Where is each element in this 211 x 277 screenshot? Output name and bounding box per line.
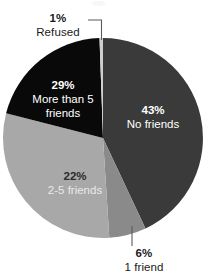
slice-label-two-to-five-percent: 22% (29, 169, 121, 183)
slice-label-no-friends-percent: 43% (113, 103, 193, 117)
pie-chart-graphic (0, 0, 211, 277)
slice-label-more-than-five-friends: 29% More than 5 friends (17, 78, 109, 120)
callout-one-friend-category: 1 friend (108, 261, 180, 275)
slice-label-no-friends: 43% No friends (113, 103, 193, 131)
callout-refused-category: Refused (22, 26, 94, 40)
slice-label-more-than-five-percent: 29% (17, 78, 109, 92)
slice-label-no-friends-category: No friends (113, 117, 193, 131)
slice-label-more-than-five-category-line1: More than 5 (17, 92, 109, 106)
callout-refused-percent: 1% (22, 12, 94, 26)
callout-one-friend: 6% 1 friend (108, 247, 180, 274)
callout-refused: 1% Refused (22, 12, 94, 39)
slice-label-two-to-five-friends: 22% 2-5 friends (29, 169, 121, 197)
slice-label-two-to-five-category: 2-5 friends (29, 183, 121, 197)
pie-chart: 1% Refused 6% 1 friend 43% No friends 29… (0, 0, 211, 277)
callout-one-friend-percent: 6% (108, 247, 180, 261)
slice-label-more-than-five-category-line2: friends (17, 106, 109, 120)
